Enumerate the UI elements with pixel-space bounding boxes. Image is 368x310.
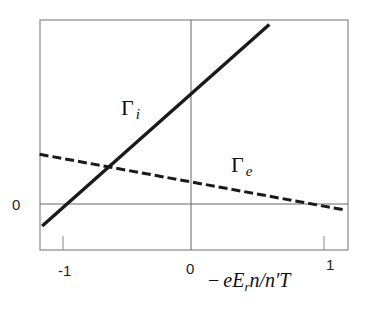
x-axis-label: −eErn/n′T: [208, 269, 292, 294]
y-tick-label-0: 0: [12, 196, 20, 213]
series-gamma-e-line: [40, 154, 345, 210]
x-tick-label-0: 0: [186, 260, 194, 277]
series-gamma-i-line: [42, 25, 269, 227]
plot-frame: [40, 20, 348, 250]
x-tick-label-neg1: -1: [58, 262, 71, 279]
x-tick-label-1: 1: [326, 256, 334, 273]
chart: Γi Γe 0 -1 0 1 −eErn/n′T: [0, 0, 368, 310]
gamma-e-label: Γe: [231, 152, 253, 179]
gamma-i-label: Γi: [121, 95, 140, 122]
